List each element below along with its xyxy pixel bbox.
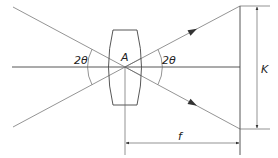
ray-upper-outgoing bbox=[125, 6, 240, 67]
ray-lower-outgoing bbox=[125, 67, 240, 129]
optics-diagram: A 2θ 2θ K f bbox=[0, 0, 278, 158]
lens-center-label: A bbox=[120, 51, 129, 64]
arrowhead-upper-ray bbox=[188, 29, 198, 36]
focal-length-label: f bbox=[178, 130, 184, 143]
arrowhead-lower-ray bbox=[188, 99, 198, 106]
ray-upper-incoming bbox=[13, 7, 125, 67]
angle-left-label: 2θ bbox=[74, 54, 88, 67]
ray-lower-incoming bbox=[13, 67, 125, 127]
image-height-label: K bbox=[261, 63, 269, 76]
angle-right-label: 2θ bbox=[162, 54, 176, 67]
